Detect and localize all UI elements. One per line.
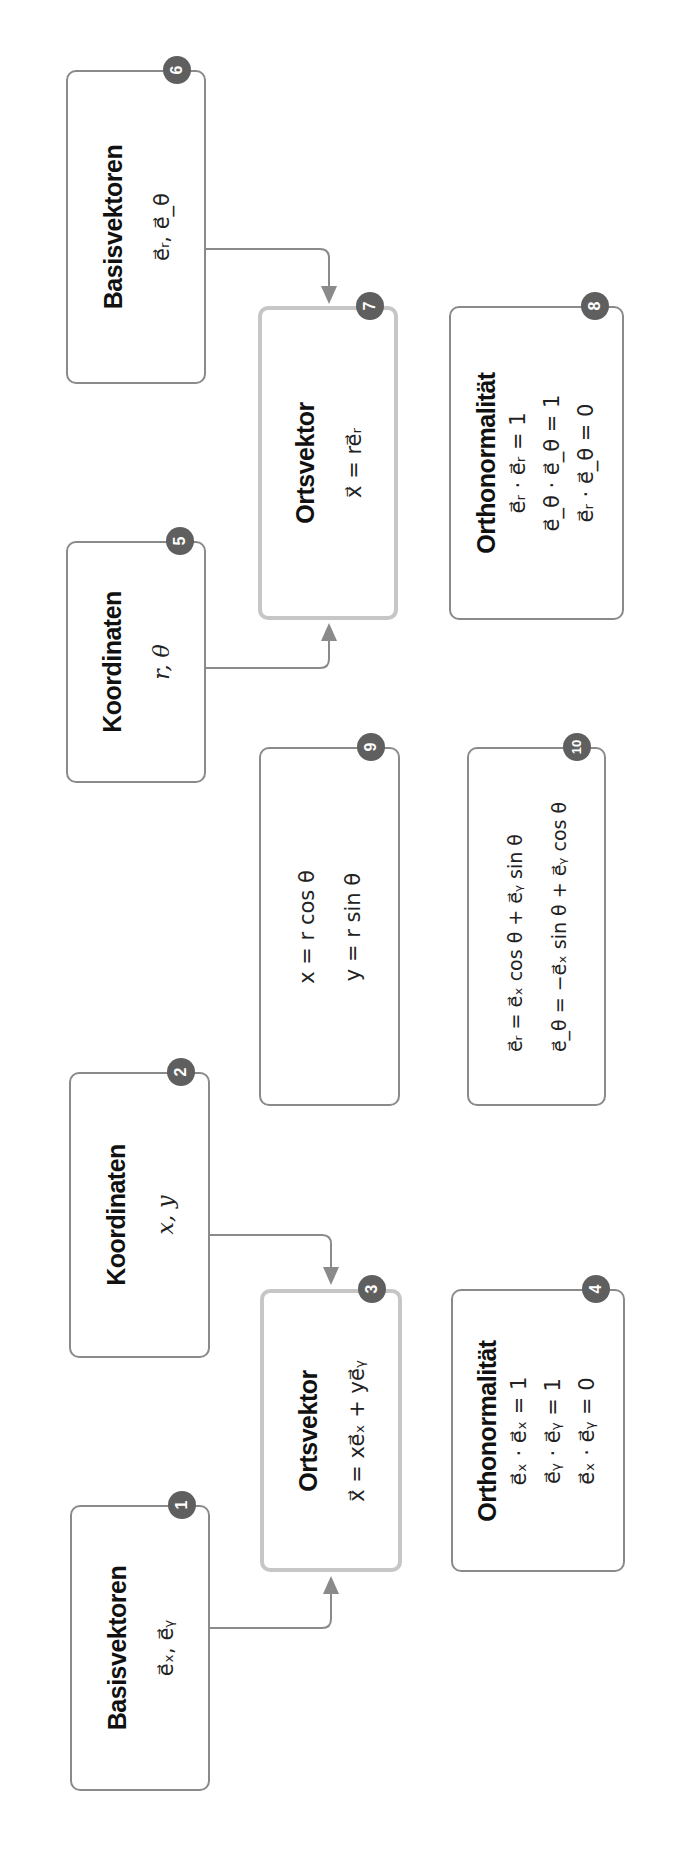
step-badge-5: 5 [166,527,194,555]
step-badge-7: 7 [356,292,384,320]
step-badge-1: 1 [168,1491,196,1519]
arrow-6-to-7 [206,249,329,296]
step-badge-6: 6 [163,56,191,84]
step-badge-9: 9 [357,733,385,761]
arrow-1-to-3 [210,1584,331,1628]
step-badge-10: 10 [563,733,591,761]
step-badge-2: 2 [167,1058,195,1086]
arrow-2-to-3 [210,1235,331,1277]
step-badge-3: 3 [358,1275,386,1303]
connector-layer [0,0,674,1858]
step-badge-4: 4 [582,1275,610,1303]
step-badge-8: 8 [581,292,609,320]
arrow-5-to-7 [206,631,329,668]
